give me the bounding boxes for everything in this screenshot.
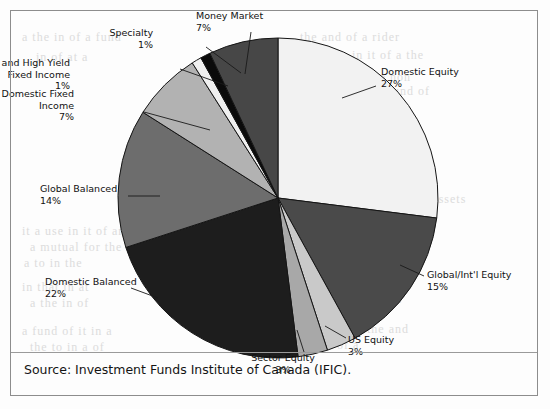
figure-frame-border <box>10 10 538 396</box>
source-caption: Source: Investment Funds Institute of Ca… <box>24 362 351 377</box>
caption-divider <box>11 352 537 353</box>
pie-chart-figure: the and of a riderin it of a thefor it a… <box>0 0 550 409</box>
